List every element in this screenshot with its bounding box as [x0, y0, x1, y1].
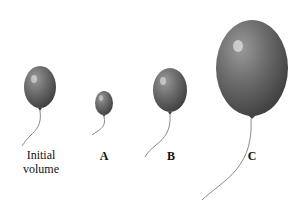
balloon-b: [145, 68, 187, 157]
label-initial-line2: volume: [16, 162, 66, 176]
balloon-a: [92, 91, 113, 135]
label-a: A: [96, 149, 112, 163]
label-b: B: [163, 149, 179, 163]
balloons-diagram: [0, 0, 306, 210]
label-initial-volume: Initial volume: [16, 148, 66, 176]
balloon-initial: [22, 66, 56, 146]
balloon-c: [202, 20, 288, 200]
label-initial-line1: Initial: [16, 148, 66, 162]
label-c: C: [244, 149, 260, 163]
